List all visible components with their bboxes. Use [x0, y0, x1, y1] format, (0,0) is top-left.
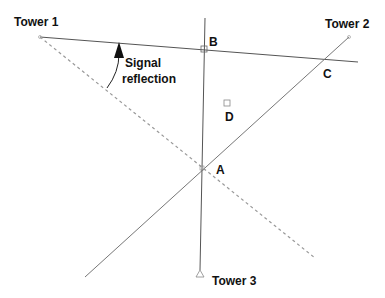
tower3-triangle-icon — [196, 270, 204, 277]
tower3-label: Tower 3 — [212, 274, 257, 288]
point-d-label: D — [225, 110, 234, 124]
tower1-label: Tower 1 — [14, 15, 59, 29]
line-tower1-east — [40, 37, 358, 62]
point-c-label: C — [323, 67, 332, 81]
signal-diagram: Tower 1 Tower 2 Tower 3 B C D A Signal r… — [0, 0, 385, 298]
point-a-label: A — [216, 163, 225, 177]
annotation-line2: reflection — [122, 72, 176, 86]
point-b-label: B — [209, 35, 218, 49]
tower2-label: Tower 2 — [325, 17, 370, 31]
line-reflection-dashed — [40, 37, 315, 258]
point-d-marker-icon — [224, 100, 230, 106]
annotation-line1: Signal — [125, 56, 161, 70]
reflection-arrowhead-icon — [114, 42, 124, 58]
line-tower3-north — [200, 18, 205, 270]
reflection-arc — [107, 54, 119, 88]
